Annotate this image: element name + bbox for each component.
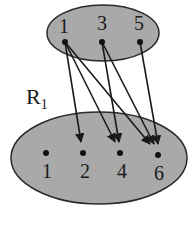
node-label: 1 [59, 15, 69, 37]
node-label: 6 [154, 162, 164, 184]
relation-diagram: 1 3 5 1 2 4 6 R1 [0, 0, 195, 225]
relation-label: R1 [26, 84, 48, 112]
node-dot [155, 152, 161, 158]
node-dot [99, 39, 105, 45]
node-label: 2 [80, 160, 90, 182]
node-dot [80, 150, 86, 156]
node-dot [137, 39, 143, 45]
node-label: 1 [42, 160, 52, 182]
node-label: 4 [117, 160, 127, 182]
node-label: 3 [97, 12, 107, 34]
codomain-set [11, 112, 187, 204]
node-label: 5 [134, 12, 144, 34]
node-dot [117, 150, 123, 156]
node-dot [43, 150, 49, 156]
node-dot [62, 39, 68, 45]
